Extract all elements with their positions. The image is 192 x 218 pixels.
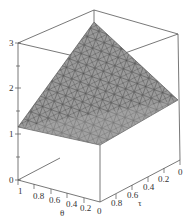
- theta-tick-0.6: 0.6: [49, 195, 61, 205]
- tau-tick-0.6: 0.6: [127, 190, 139, 200]
- z-tick-3: 3: [9, 38, 14, 48]
- theta-tick-1: 1: [18, 186, 23, 196]
- front-zero-label: 0: [97, 206, 102, 216]
- tau-tick-0.4: 0.4: [143, 182, 155, 192]
- z-tick-2: 2: [9, 83, 14, 93]
- z-tick-0: 0: [9, 175, 14, 185]
- z-tick-1: 1: [9, 129, 14, 139]
- tau-axis-label: τ: [138, 198, 142, 208]
- tau-tick-0: 0: [178, 167, 183, 177]
- tau-axis: [116, 160, 180, 199]
- tau-tick-0.8: 0.8: [111, 198, 123, 208]
- theta-axis-label: θ: [60, 208, 64, 218]
- theta-tick-0.4: 0.4: [66, 199, 78, 209]
- tau-tick-0.2: 0.2: [158, 174, 169, 184]
- surface: [18, 22, 178, 145]
- surface-plot-3d: 3 2 1 0 1 0.8 0.6 0.4 0.2 θ 0 0 0.2 0.4 …: [0, 0, 192, 218]
- theta-tick-0.8: 0.8: [33, 191, 45, 201]
- theta-tick-0.2: 0.2: [80, 203, 91, 213]
